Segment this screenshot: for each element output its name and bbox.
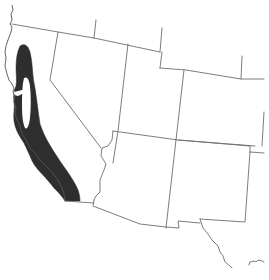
state-borders [12,20,264,268]
border-ut-az [113,131,255,146]
species-range [14,45,80,201]
border-co-nm [178,140,250,152]
border-or-ca-nv [12,24,94,38]
central-valley-gap [22,77,31,128]
border-or-id [94,20,96,38]
border-ut-wy [160,68,264,79]
border-nv-ut-north [160,28,162,52]
border-az-mx [93,200,200,228]
border-wy-ne [241,56,242,79]
texas-big-bend [249,260,264,265]
border-ut-co [176,70,184,140]
border-ca-mx [65,201,94,203]
range-map [0,0,269,280]
border-ca-nv [50,32,101,148]
border-nm-tx [200,152,250,222]
border-ok-panhandle [250,152,264,153]
border-nv-az-river [94,131,113,200]
border-co-east [262,112,264,146]
rio-grande [200,219,232,268]
border-nv-ut [113,44,128,163]
border-ut-wy-west [160,52,162,68]
border-az-nm [166,140,176,228]
